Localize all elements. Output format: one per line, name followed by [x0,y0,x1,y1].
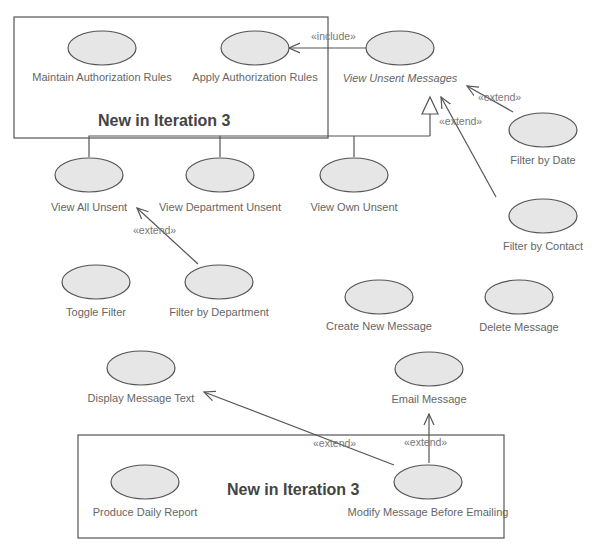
use-case-label: Modify Message Before Emailing [348,506,509,518]
use-case-label: Filter by Contact [503,240,583,252]
use-case-label: Delete Message [479,321,559,333]
extend-label: «extend» [478,91,521,103]
use-case-view-own[interactable] [320,158,388,192]
extend-label: «extend» [404,436,447,448]
use-case-toggle-filter[interactable] [62,265,130,299]
use-case-label: View Own Unsent [310,201,397,213]
extend-label: «extend» [439,115,482,127]
use-case-email-msg[interactable] [395,352,463,386]
use-case-modify-msg[interactable] [394,465,462,499]
use-case-label: Produce Daily Report [93,506,198,518]
use-case-apply-auth[interactable] [221,31,289,65]
use-case-label: Filter by Date [510,154,575,166]
include-label: «include» [311,30,356,42]
use-case-delete-msg[interactable] [485,280,553,314]
use-case-label: Toggle Filter [66,306,126,318]
use-case-label: Filter by Department [169,306,269,318]
use-case-label: Display Message Text [88,392,195,404]
use-case-label: Create New Message [326,320,432,332]
use-case-label: Email Message [391,393,466,405]
use-case-daily-report[interactable] [111,465,179,499]
use-case-filter-date[interactable] [509,113,577,147]
extend-label: «extend» [133,224,176,236]
boundary-bottom-title: New in Iteration 3 [227,481,359,499]
use-case-maintain-auth[interactable] [68,31,136,65]
use-case-view-dept[interactable] [186,158,254,192]
use-case-label: View All Unsent [51,201,127,213]
use-case-label: View Department Unsent [159,201,281,213]
use-case-filter-dept[interactable] [185,265,253,299]
use-case-label: Maintain Authorization Rules [32,71,171,83]
use-case-create-msg[interactable] [345,280,413,314]
extend-label: «extend» [313,437,356,449]
boundary-top-title: New in Iteration 3 [98,112,230,130]
use-case-display-text[interactable] [107,351,175,385]
use-case-view-unsent[interactable] [366,31,434,65]
use-case-label: Apply Authorization Rules [192,71,317,83]
use-case-filter-contact[interactable] [509,199,577,233]
use-case-label: View Unsent Messages [343,72,458,84]
use-case-view-all[interactable] [55,158,123,192]
